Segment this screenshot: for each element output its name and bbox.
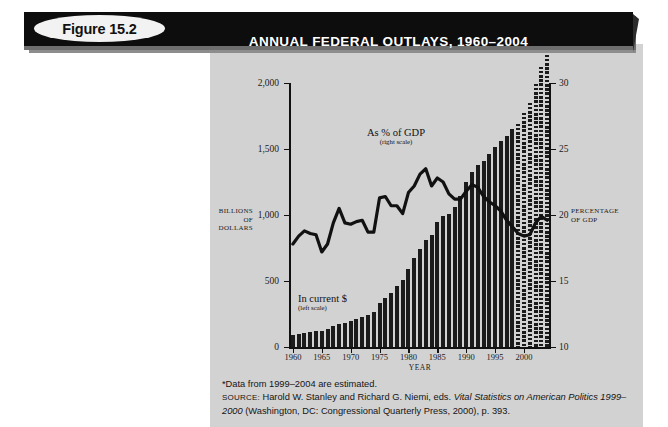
footnote-source-part1: Harold W. Stanley and Richard G. Niemi, … <box>260 392 454 402</box>
y-tick-left-1500 <box>284 149 289 150</box>
x-tick-label-1965: 1965 <box>307 352 337 362</box>
figure-footnotes: *Data from 1999–2004 are estimated. SOUR… <box>222 378 632 417</box>
annotation-outlays-sub: (left scale) <box>298 304 398 311</box>
footnote-source-label: SOURCE: <box>222 393 260 402</box>
x-tick-label-1960: 1960 <box>278 352 308 362</box>
y-tick-label-right-30: 30 <box>559 78 599 88</box>
x-tick-label-1980: 1980 <box>393 352 423 362</box>
figure-number-pill: Figure 15.2 <box>34 15 165 42</box>
y-axis-left-title: BILLIONSOFDOLLARS <box>210 207 253 233</box>
x-tick-label-1985: 1985 <box>422 352 452 362</box>
y-tick-right-25 <box>551 149 556 150</box>
x-tick-label-2000: 2000 <box>509 352 539 362</box>
y-tick-left-2000 <box>284 83 289 84</box>
x-tick-label-1990: 1990 <box>451 352 481 362</box>
y-tick-label-right-15: 15 <box>559 276 599 286</box>
footnote-estimated-note: *Data from 1999–2004 are estimated. <box>222 378 632 390</box>
y-tick-left-500 <box>284 281 289 282</box>
y-tick-right-20 <box>551 215 556 216</box>
x-tick-label-1970: 1970 <box>336 352 366 362</box>
y-tick-left-1000 <box>284 215 289 216</box>
y-tick-label-left-500: 500 <box>239 276 279 286</box>
x-axis-title: YEAR <box>289 363 551 372</box>
x-tick-label-1995: 1995 <box>480 352 510 362</box>
annotation-gdp-sub: (right scale) <box>341 138 451 145</box>
x-tick-label-1975: 1975 <box>365 352 395 362</box>
figure-number-label: Figure 15.2 <box>62 21 136 37</box>
y-tick-label-left-2000: 2,000 <box>239 78 279 88</box>
y-tick-label-left-1500: 1,500 <box>239 144 279 154</box>
y-tick-label-right-10: 10 <box>559 342 599 352</box>
y-axis-right-title: PERCENTAGEOF GDP <box>571 207 641 224</box>
y-tick-right-10 <box>551 347 556 348</box>
y-tick-right-30 <box>551 83 556 84</box>
x-axis-line <box>289 347 551 349</box>
y-tick-label-right-25: 25 <box>559 144 599 154</box>
footnote-source: SOURCE: Harold W. Stanley and Richard G.… <box>222 391 632 417</box>
annotation-gdp-line: As % of GDP (right scale) <box>341 127 451 145</box>
chart: 0 500 1,000 1,500 2,000 10 15 20 25 30 B… <box>210 44 643 364</box>
annotation-outlays-bars: In current $ (left scale) <box>298 293 398 311</box>
y-tick-left-0 <box>284 347 289 348</box>
y-tick-label-left-0: 0 <box>239 342 279 352</box>
footnote-source-part2: (Washington, DC: Congressional Quarterly… <box>243 406 510 416</box>
y-tick-right-15 <box>551 281 556 282</box>
annotation-gdp-main: As % of GDP <box>341 127 451 138</box>
annotation-outlays-main: In current $ <box>298 293 398 304</box>
